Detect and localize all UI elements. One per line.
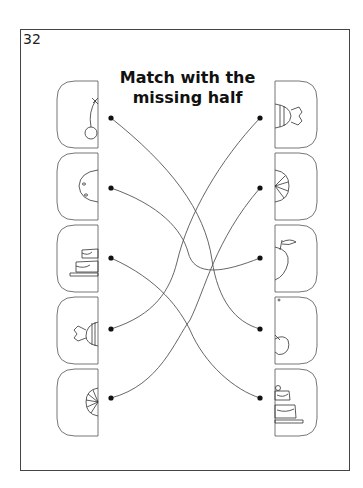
right-dot-4[interactable] [257, 326, 262, 331]
connection-lines [111, 118, 260, 398]
left-dot-5[interactable] [108, 395, 113, 400]
cherry-half-icon [85, 98, 98, 139]
right-card-5 [275, 369, 317, 436]
cookie-half-icon [79, 170, 98, 202]
lollipop-half-icon [86, 388, 98, 416]
right-card-3 [275, 225, 317, 292]
left-dot-4[interactable] [108, 326, 113, 331]
connection-left1-right4 [111, 118, 260, 329]
connection-left5-right2 [111, 188, 260, 398]
right-dot-2[interactable] [257, 185, 262, 190]
apple-half-icon [275, 240, 296, 280]
right-dot-3[interactable] [257, 255, 262, 260]
connection-left3-right5 [111, 258, 260, 398]
left-card-2 [57, 153, 98, 220]
connection-left4-right1 [111, 118, 260, 329]
left-dot-1[interactable] [108, 115, 113, 120]
right-card-2 [275, 153, 317, 220]
right-dot-1[interactable] [257, 115, 262, 120]
left-dot-2[interactable] [108, 185, 113, 190]
left-dot-3[interactable] [108, 255, 113, 260]
left-card-5 [57, 369, 98, 436]
right-card-4 [275, 297, 317, 364]
right-dot-5[interactable] [257, 395, 262, 400]
cake-half-icon [275, 386, 303, 424]
matching-artwork [0, 0, 363, 488]
cake-half-icon [70, 249, 98, 276]
connection-left2-right3 [111, 188, 260, 270]
lollipop-half-icon [275, 170, 289, 202]
cherry-half-icon [275, 299, 289, 355]
right-card-1 [275, 81, 317, 148]
candy-half-icon [275, 104, 302, 128]
left-card-3 [57, 225, 98, 292]
left-card-1 [57, 81, 98, 148]
candy-half-icon [74, 322, 98, 346]
